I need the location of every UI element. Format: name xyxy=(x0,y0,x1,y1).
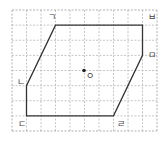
center-label: ㅇ xyxy=(86,71,94,81)
vertex-label: ㄹ xyxy=(117,119,125,129)
vertex-label: ㄱ xyxy=(48,12,56,22)
vertex-label: ㄴ xyxy=(17,77,25,87)
symmetry-diagram: ㄱㅂㅁㄹㄷㄴ ㅇ xyxy=(0,0,166,142)
vertex-label: ㄷ xyxy=(18,119,26,129)
vertex-label: ㅂ xyxy=(148,12,156,22)
vertex-label: ㅁ xyxy=(148,50,156,60)
